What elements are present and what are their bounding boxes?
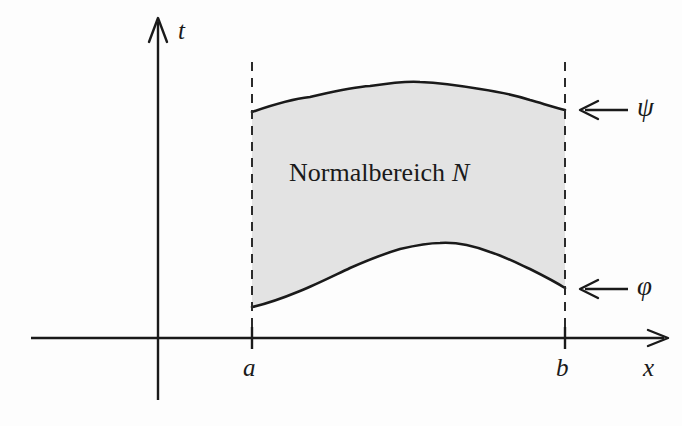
region-label-text: Normalbereich xyxy=(289,158,445,187)
normal-region-fill xyxy=(252,82,565,307)
psi-label: ψ xyxy=(637,94,654,121)
phi-label: φ xyxy=(637,273,652,300)
region-label-symbol: N xyxy=(445,158,469,187)
t-axis-label: t xyxy=(178,18,185,43)
tick-label-b: b xyxy=(556,355,569,380)
tick-label-a: a xyxy=(243,355,256,380)
x-axis-label: x xyxy=(643,355,654,380)
normalbereich-diagram: t x a b NormalbereichN ψ φ xyxy=(0,0,682,426)
diagram-canvas xyxy=(0,0,682,426)
region-label: NormalbereichN xyxy=(289,160,469,186)
